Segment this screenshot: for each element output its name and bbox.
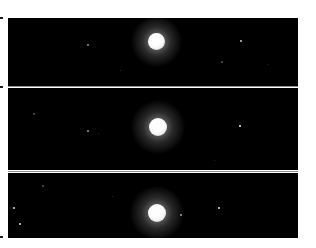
edge-notch-top-left — [0, 17, 3, 19]
background-speck — [42, 185, 43, 186]
background-speck — [214, 160, 215, 161]
background-speck — [268, 64, 269, 65]
moon-far-left-1 — [13, 207, 15, 209]
panel-divider-1-2 — [8, 86, 298, 87]
observation-panel-3 — [8, 173, 298, 238]
moon-far-left-2 — [19, 223, 21, 225]
figure-root: Three-epoch imaging sequence of a bright… — [0, 0, 316, 248]
planet-disc — [148, 204, 166, 222]
moon-left-1 — [87, 130, 89, 132]
panel-divider-2-3 — [8, 171, 298, 172]
observation-panel-1 — [8, 18, 298, 86]
moon-right-1 — [240, 40, 242, 42]
background-speck — [120, 70, 121, 71]
moon-near-right-1 — [180, 214, 182, 216]
background-speck — [112, 196, 113, 197]
edge-notch-bottom-left — [0, 236, 3, 238]
moon-left-1 — [87, 44, 89, 46]
background-speck — [33, 113, 34, 114]
planet-disc — [149, 118, 167, 136]
observation-panel-2 — [8, 88, 298, 170]
background-speck — [221, 61, 222, 62]
moon-right-1 — [239, 125, 241, 127]
moon-right-1 — [218, 207, 220, 209]
edge-notch-mid-left — [0, 86, 3, 88]
panel-stack — [0, 0, 316, 248]
planet-disc — [148, 33, 165, 50]
background-speck — [98, 133, 99, 134]
